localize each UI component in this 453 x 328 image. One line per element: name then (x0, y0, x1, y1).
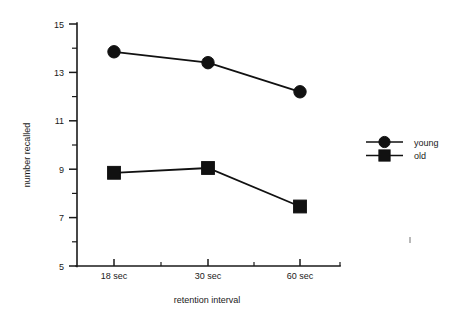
legend-old-label: old (414, 151, 426, 161)
y-axis-title: number recalled (22, 123, 32, 188)
x-tick-label-30sec: 30 sec (195, 271, 222, 281)
x-tick-label-18sec: 18 sec (101, 271, 128, 281)
y-tick-label-5: 5 (59, 262, 64, 272)
chart-figure: 5 7 9 11 13 15 number recalled 18 sec 30… (0, 0, 453, 328)
y-tick-label-9: 9 (59, 165, 64, 175)
series-young-point-30sec (202, 57, 214, 69)
scan-artifact-speck (409, 237, 411, 243)
series-old-point-60sec (294, 200, 307, 213)
series-old-point-30sec (202, 162, 215, 175)
x-tick-label-60sec: 60 sec (287, 271, 314, 281)
legend-old-square-icon (379, 150, 390, 161)
legend-young-circle-icon (379, 136, 390, 147)
y-tick-label-7: 7 (59, 213, 64, 223)
chart-background (0, 0, 453, 328)
x-axis-title: retention interval (174, 295, 241, 305)
series-old-point-18sec (108, 166, 121, 179)
y-tick-label-13: 13 (54, 68, 64, 78)
y-tick-label-11: 11 (55, 116, 64, 126)
series-young-point-18sec (108, 46, 120, 58)
series-young-point-60sec (294, 86, 306, 98)
legend-young-label: young (414, 138, 439, 148)
y-tick-label-15: 15 (54, 20, 64, 30)
